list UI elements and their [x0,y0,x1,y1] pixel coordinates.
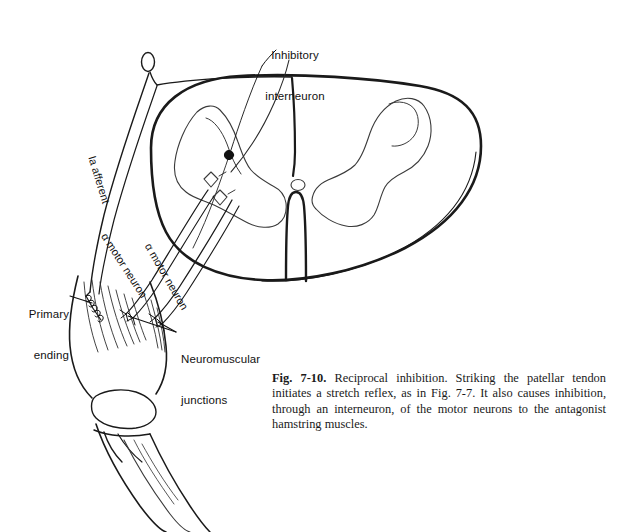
dorsal-root-ganglion-stalk [150,72,157,85]
inhibitory-interneuron-terminal [193,156,229,248]
figure-root: Inhibitory interneuron Ia afferent α mot… [0,0,617,532]
ventral-median-fissure [286,192,306,281]
figure-number: Fig. 7-10. [272,371,326,385]
knee-joint-line [94,430,150,436]
gray-matter-right-dorsal-crescent [389,102,418,146]
label-inhibitory-interneuron: Inhibitory interneuron [240,22,350,130]
synapse-contact-cue-2 [228,190,235,194]
label-neuromuscular-junctions: Neuromuscular junctions [181,326,260,434]
thigh-posterior-contour [150,282,167,394]
label-primary-ending: Primary ending [19,281,69,389]
thigh-anterior-contour [69,276,92,398]
label-neuromuscular-junctions-line2: junctions [181,394,260,408]
lower-leg-middle [124,440,190,532]
knee-patella [92,390,157,429]
inhibitory-interneuron-soma [224,150,233,159]
synapse-marker-1 [204,172,218,187]
synapse-marker-2 [213,190,227,205]
figure-title: Reciprocal inhibition. [334,371,447,385]
central-canal [291,180,305,191]
figure-caption: Fig. 7-10. Reciprocal inhibition. Striki… [272,371,606,433]
label-inhibitory-interneuron-line2: interneuron [240,90,350,104]
label-primary-ending-line2: ending [19,349,69,363]
alpha-motor-neuron-2-axon [155,200,232,318]
label-neuromuscular-junctions-line1: Neuromuscular [181,353,260,367]
dorsal-root-ganglion [142,53,155,72]
label-inhibitory-interneuron-line1: Inhibitory [240,49,350,63]
label-primary-ending-line1: Primary [19,308,69,322]
